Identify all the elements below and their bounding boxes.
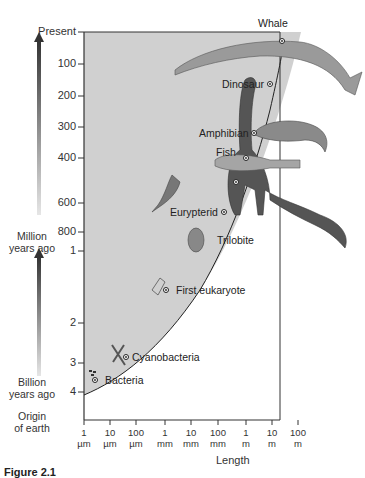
label-bacteria: Bacteria <box>105 374 144 386</box>
x-tick-100um: 100µm <box>121 427 151 449</box>
y-tick-3b: 3 <box>46 356 76 368</box>
x-tick-100mm: 100mm <box>203 427 233 449</box>
figure-caption: Figure 2.1 <box>4 466 56 478</box>
label-whale: Whale <box>258 17 288 29</box>
million-years-ago-label: Million years ago <box>4 230 60 254</box>
origin-of-earth-label: Origin of earth <box>4 410 60 434</box>
x-tick-100m: 100m <box>283 427 313 449</box>
label-amphibian: Amphibian <box>199 127 249 139</box>
y-tick-400: 400 <box>46 151 76 163</box>
x-axis-title: Length <box>216 454 250 466</box>
y-tick-600: 600 <box>46 196 76 208</box>
label-trilobite: Trilobite <box>217 234 254 246</box>
x-tick-10mm: 10mm <box>176 427 206 449</box>
billion-years-arrow <box>37 256 41 376</box>
y-tick-present: Present <box>30 25 76 37</box>
y-tick-300: 300 <box>46 120 76 132</box>
million-years-arrow <box>37 40 41 215</box>
label-eurypterid: Eurypterid <box>170 206 218 218</box>
label-dinosaur: Dinosaur <box>222 78 264 90</box>
label-first-eukaryote: First eukaryote <box>176 284 245 296</box>
y-tick-200: 200 <box>46 89 76 101</box>
billion-years-ago-label: Billion years ago <box>4 376 60 400</box>
label-cyanobacteria: Cyanobacteria <box>132 351 200 363</box>
trilobite-illustration <box>188 228 204 252</box>
label-fish: Fish <box>216 146 236 158</box>
y-tick-2b: 2 <box>46 316 76 328</box>
y-tick-100: 100 <box>46 57 76 69</box>
